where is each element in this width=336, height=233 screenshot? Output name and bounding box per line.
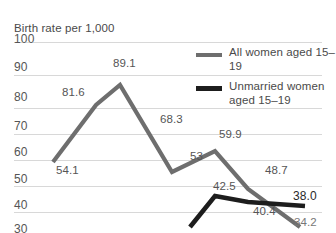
data-label-42-5: 42.5 — [213, 180, 236, 192]
chart-legend: All women aged 15–19 Unmarried women age… — [196, 46, 336, 114]
data-label-40-4: 40.4 — [253, 205, 276, 217]
legend-swatch-grey-icon — [196, 53, 222, 57]
legend-label-unmarried-women: Unmarried women aged 15–19 — [229, 80, 336, 107]
data-label-81-6: 81.6 — [62, 86, 85, 98]
data-label-38-0: 38.0 — [293, 189, 317, 203]
data-label-53: 53 — [190, 150, 203, 162]
series-line-unmarried-women — [190, 196, 305, 227]
legend-label-all-women: All women aged 15–19 — [229, 46, 336, 73]
data-label-89-1: 89.1 — [113, 57, 136, 69]
data-label-34-2: 34.2 — [294, 216, 317, 228]
legend-swatch-black-icon — [196, 86, 222, 91]
data-label-54-1: 54.1 — [56, 164, 79, 176]
data-label-48-7: 48.7 — [265, 164, 288, 176]
legend-item-all-women[interactable]: All women aged 15–19 — [196, 46, 336, 73]
data-label-59-9: 59.9 — [219, 128, 242, 140]
legend-item-unmarried-women[interactable]: Unmarried women aged 15–19 — [196, 80, 336, 107]
data-label-68-3: 68.3 — [160, 113, 183, 125]
